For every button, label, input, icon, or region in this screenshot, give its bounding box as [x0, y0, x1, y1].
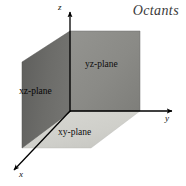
axis-y-label: y	[165, 113, 169, 123]
plane-xy-label: xy-plane	[58, 127, 91, 137]
figure-title: Octants	[133, 3, 179, 19]
plane-yz-label: yz-plane	[85, 59, 118, 69]
axis-x-label: x	[19, 169, 23, 179]
octants-figure: Octants yz-plane xz-plane xy-plane z y x	[0, 0, 186, 186]
plane-yz-surface	[70, 31, 140, 111]
plane-xz-label: xz-plane	[19, 86, 52, 96]
axis-z-label: z	[58, 2, 62, 12]
